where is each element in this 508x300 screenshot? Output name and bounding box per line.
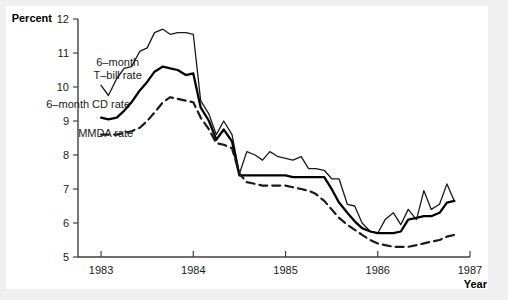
y-tick-label: 8 xyxy=(63,149,69,161)
y-tick-label: 12 xyxy=(57,13,69,25)
series-line-1 xyxy=(101,67,454,234)
chart-axes xyxy=(78,19,470,257)
y-tick-label: 6 xyxy=(63,217,69,229)
x-tick-label: 1984 xyxy=(181,264,205,276)
series-line-0 xyxy=(101,29,454,233)
x-tick-label: 1983 xyxy=(89,264,113,276)
chart-series xyxy=(101,29,454,247)
y-axis-title: Percent xyxy=(12,12,53,24)
x-axis-title: Year xyxy=(464,278,488,290)
series-annotation: T–bill rate xyxy=(94,69,142,81)
x-tick-label: 1986 xyxy=(366,264,390,276)
y-tick-label: 9 xyxy=(63,115,69,127)
series-annotations: 6–monthT–bill rate6–month CD rateMMDA ra… xyxy=(46,56,142,139)
y-tick-label: 11 xyxy=(58,47,69,59)
y-axis-ticks: 56789101112 xyxy=(57,13,78,263)
x-tick-label: 1987 xyxy=(458,264,482,276)
x-axis-ticks: 19831984198519861987 xyxy=(89,251,482,276)
chart-page: 56789101112 19831984198519861987 6–month… xyxy=(0,0,508,300)
series-annotation: 6–month xyxy=(96,56,139,68)
line-chart: 56789101112 19831984198519861987 6–month… xyxy=(0,0,508,300)
y-tick-label: 5 xyxy=(63,251,69,263)
x-tick-label: 1985 xyxy=(273,264,297,276)
y-tick-label: 10 xyxy=(57,81,69,93)
series-annotation: 6–month CD rate xyxy=(46,98,130,110)
series-annotation: MMDA rate xyxy=(78,127,133,139)
y-tick-label: 7 xyxy=(63,183,69,195)
